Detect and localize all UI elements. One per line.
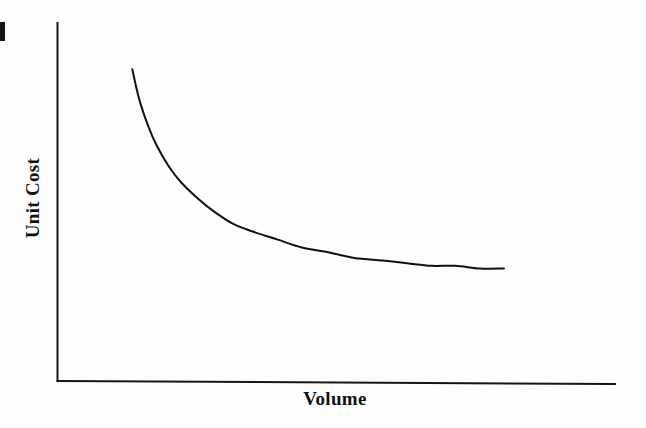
x-axis-label: Volume	[255, 388, 415, 410]
y-axis-label-text: Unit Cost	[22, 158, 44, 238]
chart-plot-area	[0, 0, 646, 428]
y-axis-label: Unit Cost	[0, 150, 66, 246]
x-axis-line	[57, 381, 617, 384]
data-series-line	[132, 69, 504, 268]
chart-figure: Unit Cost Volume	[0, 0, 646, 428]
